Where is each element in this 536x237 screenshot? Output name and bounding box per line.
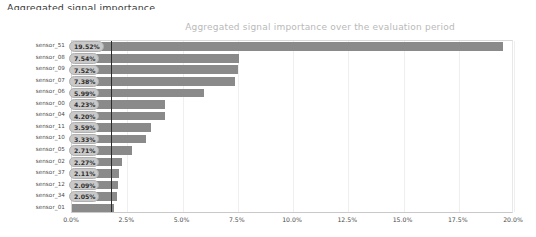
category-label: sensor_00 bbox=[36, 100, 65, 106]
bar-value-label: 2.11% bbox=[69, 168, 99, 179]
x-tick-label: 10.0% bbox=[282, 216, 302, 223]
category-label: sensor_05 bbox=[36, 146, 65, 152]
chart-title: Aggregated signal importance over the ev… bbox=[170, 22, 470, 32]
category-label: sensor_11 bbox=[36, 123, 65, 129]
bar-value-label: 2.05% bbox=[69, 191, 99, 202]
category-label: sensor_04 bbox=[36, 111, 65, 117]
x-axis-labels: 0.0%2.5%5.0%7.5%10.0%12.5%15.0%17.5%20.0… bbox=[71, 216, 513, 230]
bar-value-label: 19.52% bbox=[69, 41, 104, 52]
category-label: sensor_12 bbox=[36, 181, 65, 187]
bar-row[interactable]: 5.99% bbox=[72, 87, 512, 99]
category-label: sensor_06 bbox=[36, 88, 65, 94]
bar-row[interactable]: 2.27% bbox=[72, 156, 512, 168]
bar-row[interactable]: 2.71% bbox=[72, 145, 512, 157]
x-tick-label: 12.5% bbox=[337, 216, 357, 223]
bar-row[interactable]: 3.59% bbox=[72, 122, 512, 134]
bar[interactable] bbox=[72, 204, 114, 213]
reference-line bbox=[111, 41, 113, 212]
bar-row[interactable]: 2.09% bbox=[72, 179, 512, 191]
bar-value-label: 7.52% bbox=[69, 65, 99, 76]
x-tick-label: 2.5% bbox=[118, 216, 134, 223]
bar-row[interactable]: 3.33% bbox=[72, 133, 512, 145]
x-tick-label: 20.0% bbox=[503, 216, 523, 223]
x-tick-label: 15.0% bbox=[393, 216, 413, 223]
bar-row[interactable]: 2.05% bbox=[72, 191, 512, 203]
x-tick-label: 5.0% bbox=[174, 216, 190, 223]
bar-value-label: 2.09% bbox=[69, 180, 99, 191]
category-label: sensor_37 bbox=[36, 169, 65, 175]
category-label: sensor_34 bbox=[36, 192, 65, 198]
bar-row[interactable]: 7.38% bbox=[72, 76, 512, 88]
bar-value-label: 2.27% bbox=[69, 157, 99, 168]
bar-value-label: 5.99% bbox=[69, 88, 99, 99]
bar-row[interactable]: 2.11% bbox=[72, 168, 512, 180]
bar-row[interactable]: 4.20% bbox=[72, 110, 512, 122]
category-label: sensor_02 bbox=[36, 158, 65, 164]
bar-value-label: 4.23% bbox=[69, 99, 99, 110]
category-label: sensor_10 bbox=[36, 134, 65, 140]
bar-row[interactable] bbox=[72, 202, 512, 214]
bar-value-label: 7.54% bbox=[69, 53, 99, 64]
bar-row[interactable]: 19.52% bbox=[72, 41, 512, 53]
bar-value-label: 7.38% bbox=[69, 76, 99, 87]
category-label: sensor_09 bbox=[36, 65, 65, 71]
category-label: sensor_08 bbox=[36, 54, 65, 60]
x-tick-label: 7.5% bbox=[229, 216, 245, 223]
gridline bbox=[514, 41, 515, 212]
category-label: sensor_51 bbox=[36, 42, 65, 48]
category-label: sensor_01 bbox=[36, 204, 65, 210]
category-label: sensor_07 bbox=[36, 77, 65, 83]
plot-area: 19.52%7.54%7.52%7.38%5.99%4.23%4.20%3.59… bbox=[71, 40, 513, 213]
bar-row[interactable]: 7.52% bbox=[72, 64, 512, 76]
bar[interactable] bbox=[72, 42, 503, 51]
bar-value-label: 2.71% bbox=[69, 145, 99, 156]
bar-row[interactable]: 7.54% bbox=[72, 53, 512, 65]
x-tick-label: 0.0% bbox=[63, 216, 79, 223]
bar-row[interactable]: 4.23% bbox=[72, 99, 512, 111]
bar-value-label: 3.59% bbox=[69, 122, 99, 133]
bar-value-label: 3.33% bbox=[69, 134, 99, 145]
bar-value-label: 4.20% bbox=[69, 111, 99, 122]
chart-card: Aggregated signal importance over the ev… bbox=[0, 10, 536, 237]
x-tick-label: 17.5% bbox=[448, 216, 468, 223]
